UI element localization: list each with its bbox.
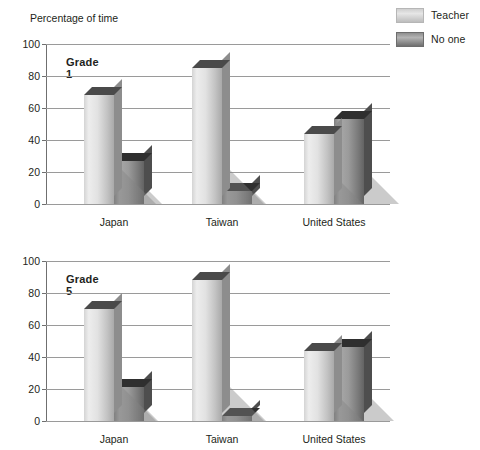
y-tick-label: 40: [6, 352, 40, 363]
y-axis-grade1: 020406080100: [0, 44, 40, 205]
chart-legend: Teacher No one: [396, 8, 480, 56]
y-axis-line: [46, 44, 47, 205]
y-tick-mark: [42, 204, 46, 205]
category-label-taiwan: Taiwan: [206, 216, 239, 228]
legend-label-teacher: Teacher: [431, 9, 469, 21]
bar-united-states-teacher: [304, 351, 334, 421]
y-tick-mark: [42, 108, 46, 109]
bar-japan-teacher: [84, 309, 114, 421]
y-tick-mark: [42, 421, 46, 422]
y-tick-label: 60: [6, 103, 40, 114]
y-tick-label: 20: [6, 167, 40, 178]
legend-swatch-no-one: [396, 32, 424, 47]
gridline: [46, 204, 390, 205]
y-tick-mark: [42, 172, 46, 173]
bar-taiwan-teacher: [192, 280, 222, 421]
bar-japan-teacher: [84, 95, 114, 204]
y-tick-mark: [42, 76, 46, 77]
y-tick-label: 100: [6, 39, 40, 50]
bar-front-face: [192, 280, 222, 421]
bar-united-states-teacher: [304, 134, 334, 204]
y-tick-mark: [42, 325, 46, 326]
bar-taiwan-teacher: [192, 68, 222, 204]
y-tick-mark: [42, 293, 46, 294]
category-label-united-states: United States: [302, 433, 365, 445]
y-tick-label: 80: [6, 71, 40, 82]
y-tick-label: 0: [6, 416, 40, 427]
bar-front-face: [304, 351, 334, 421]
y-tick-label: 60: [6, 320, 40, 331]
y-tick-label: 80: [6, 288, 40, 299]
y-tick-mark: [42, 261, 46, 262]
plot-area-grade1: JapanTaiwanUnited States: [46, 44, 390, 204]
bar-front-face: [84, 95, 114, 204]
y-axis-grade5: 020406080100: [0, 261, 40, 422]
category-label-japan: Japan: [100, 433, 129, 445]
gridline: [46, 44, 390, 45]
y-axis-line: [46, 261, 47, 422]
y-tick-label: 100: [6, 256, 40, 267]
category-label-united-states: United States: [302, 216, 365, 228]
gridline: [46, 261, 390, 262]
y-tick-mark: [42, 44, 46, 45]
legend-label-no-one: No one: [431, 33, 465, 45]
bar-front-face: [84, 309, 114, 421]
legend-item-no-one: No one: [396, 32, 480, 46]
bar-side-face: [222, 52, 230, 196]
category-label-japan: Japan: [100, 216, 129, 228]
y-tick-label: 40: [6, 135, 40, 146]
y-tick-label: 20: [6, 384, 40, 395]
legend-item-teacher: Teacher: [396, 8, 480, 22]
category-label-taiwan: Taiwan: [206, 433, 239, 445]
bar-side-face: [114, 293, 122, 413]
bar-side-face: [222, 264, 230, 413]
bar-side-face: [114, 79, 122, 196]
bar-front-face: [304, 134, 334, 204]
chart-figure: Percentage of time Teacher No one Grade …: [0, 0, 480, 450]
y-axis-title: Percentage of time: [30, 12, 118, 24]
y-tick-mark: [42, 357, 46, 358]
bar-front-face: [192, 68, 222, 204]
y-tick-label: 0: [6, 199, 40, 210]
legend-swatch-teacher: [396, 8, 424, 23]
gridline: [46, 421, 390, 422]
plot-area-grade5: JapanTaiwanUnited States: [46, 261, 390, 421]
y-tick-mark: [42, 140, 46, 141]
y-tick-mark: [42, 389, 46, 390]
